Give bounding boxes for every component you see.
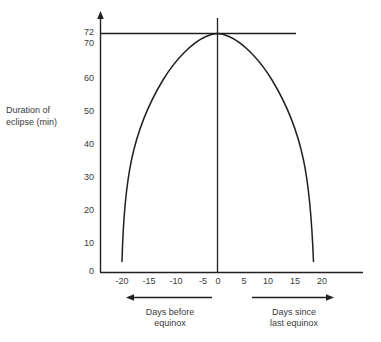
chart-plot-area xyxy=(0,0,381,342)
days-before-equinox-label: Days before equinox xyxy=(118,307,222,329)
y-tick-label-72: 72 xyxy=(72,27,94,38)
x-tick-label-minus-10: -10 xyxy=(165,276,187,287)
y-tick-label-10: 10 xyxy=(72,238,94,249)
x-tick-label-minus-20: -20 xyxy=(111,276,133,287)
x-tick-label-20: 20 xyxy=(311,276,333,287)
days-before-equinox-label-line-1: Days before xyxy=(118,307,222,318)
y-axis-arrowhead xyxy=(97,11,104,19)
days-since-equinox-arrowhead xyxy=(326,294,334,300)
days-since-equinox-label-line-2: last equinox xyxy=(242,318,346,329)
y-tick-label-20: 20 xyxy=(72,205,94,216)
y-tick-label-70: 70 xyxy=(72,38,94,49)
x-tick-label-15: 15 xyxy=(284,276,306,287)
x-tick-label-10: 10 xyxy=(257,276,279,287)
y-tick-label-40: 40 xyxy=(72,139,94,150)
days-before-equinox-arrowhead xyxy=(126,294,134,300)
days-since-equinox-label: Days since last equinox xyxy=(242,307,346,329)
days-since-equinox-label-line-1: Days since xyxy=(242,307,346,318)
y-tick-label-30: 30 xyxy=(72,172,94,183)
x-tick-label-5: 5 xyxy=(233,276,255,287)
x-tick-label-0: 0 xyxy=(207,276,229,287)
x-tick-label-minus-15: -15 xyxy=(138,276,160,287)
y-tick-label-0: 0 xyxy=(72,266,94,277)
y-axis-title-line-2: eclipse (min) xyxy=(6,116,92,128)
y-tick-label-50: 50 xyxy=(72,106,94,117)
y-tick-label-60: 60 xyxy=(72,73,94,84)
eclipse-duration-chart: Duration of eclipse (min) 0 10 20 30 40 … xyxy=(0,0,381,342)
days-before-equinox-label-line-2: equinox xyxy=(118,318,222,329)
